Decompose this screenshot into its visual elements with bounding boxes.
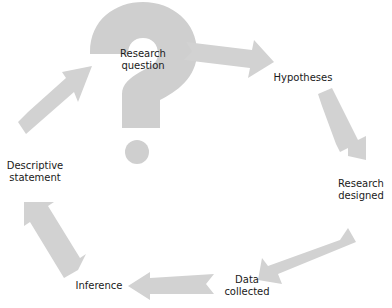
node-research-designed: Research designed — [330, 178, 392, 202]
node-label-line1: Research — [330, 178, 392, 190]
node-label-line1: Research — [112, 48, 174, 60]
node-label-line2: statement — [0, 172, 70, 184]
arrow-descriptive-to-question — [18, 66, 92, 134]
node-label-line1: Data — [214, 274, 280, 286]
node-descriptive-statement: Descriptive statement — [0, 160, 70, 184]
node-label-line2: question — [112, 60, 174, 72]
node-data-collected: Data collected — [214, 274, 280, 298]
arrow-hypotheses-to-designed — [318, 88, 366, 160]
node-research-question: Research question — [112, 48, 174, 72]
node-inference: Inference — [68, 280, 130, 292]
node-label-line2: collected — [214, 286, 280, 298]
node-hypotheses: Hypotheses — [264, 72, 342, 84]
node-label-line2: designed — [330, 190, 392, 202]
cycle-diagram — [0, 0, 392, 308]
node-label-line1: Hypotheses — [264, 72, 342, 84]
question-mark-icon — [90, 2, 197, 164]
node-label-line1: Descriptive — [0, 160, 70, 172]
arrow-question-to-hypotheses — [184, 40, 274, 78]
arrow-data-to-inference — [128, 272, 214, 300]
arrow-inference-to-descriptive — [24, 202, 86, 278]
node-label-line1: Inference — [68, 280, 130, 292]
